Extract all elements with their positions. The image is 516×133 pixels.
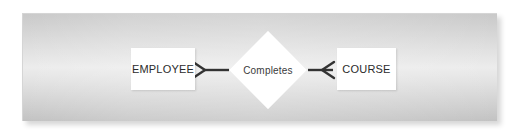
entity-employee[interactable]: EMPLOYEE [131,48,195,90]
relationship-completes-label: Completes [228,30,308,110]
er-diagram: EMPLOYEE Completes COURSE [0,0,516,133]
entity-employee-label: EMPLOYEE [132,63,194,75]
entity-course-label: COURSE [342,63,390,75]
relationship-completes[interactable]: Completes [228,30,308,110]
figure-canvas: EMPLOYEE Completes COURSE [0,0,516,133]
entity-course[interactable]: COURSE [337,48,396,90]
